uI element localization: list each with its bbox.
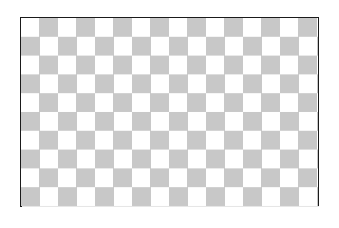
canvas-shadow <box>22 206 319 207</box>
checkerboard-canvas <box>20 17 319 207</box>
